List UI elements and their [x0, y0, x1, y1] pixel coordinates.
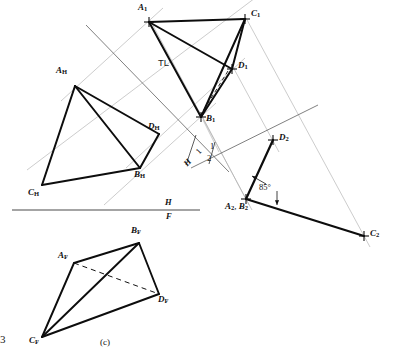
edge-AH-DH: [75, 86, 159, 134]
label-point-BF: BF: [131, 226, 141, 236]
label-point-D1: D1: [238, 61, 248, 71]
label-true-length: TL: [158, 58, 169, 68]
figure-canvas: AH BH CH DH AF BF CF DF A1 B1 C1 D1 A2, …: [0, 0, 396, 356]
label-point-D2: D2: [279, 133, 289, 143]
label-fold-hf-f: F: [166, 212, 172, 221]
projector-CH-C1: [27, 0, 259, 170]
label-point-AH: AH: [56, 66, 67, 76]
edge-A1-C1: [149, 19, 245, 22]
label-point-DF: DF: [158, 295, 168, 305]
point-markers: [144, 14, 369, 241]
label-point-DH: DH: [148, 122, 160, 132]
edge-CH-BH: [42, 168, 140, 185]
projector-D1-D2: [233, 67, 279, 152]
edge-BF-DF: [139, 243, 159, 294]
label-fold-hf-h: H: [165, 198, 172, 207]
projector-DH-D1: [126, 58, 245, 168]
edge-AH-BH: [75, 86, 140, 168]
edge-BH-DH: [140, 134, 159, 168]
page-number: 3: [0, 334, 6, 345]
label-fold-12-1: 1: [210, 142, 214, 151]
edge-A1-B1-hidden: [200, 71, 228, 116]
edge-AH-CH: [42, 86, 75, 185]
edge-CF-DF: [42, 294, 159, 337]
label-point-A2-B2: A2, B2: [225, 202, 248, 212]
label-angle-85: 85°: [259, 183, 271, 192]
fold-line-h1: [86, 25, 229, 172]
label-fold-12-2: 2: [207, 154, 211, 163]
label-point-B1: B1: [206, 114, 215, 124]
label-point-CF: CF: [29, 336, 39, 346]
label-point-BH: BH: [134, 170, 145, 180]
label-point-CH: CH: [28, 188, 39, 198]
edge-AF-DF-hidden: [74, 263, 159, 294]
label-point-C2: C2: [370, 229, 379, 239]
label-point-AF: AF: [58, 251, 68, 261]
edge-B1-D1: [201, 69, 232, 117]
geometry-drawing: [0, 0, 396, 356]
label-point-A1: A1: [138, 3, 147, 13]
projector-C1-C2: [246, 18, 370, 247]
edge-A2B2-C2: [246, 199, 364, 236]
label-point-C1: C1: [251, 9, 260, 19]
edge-AF-CF: [42, 263, 74, 337]
figure-caption: (c): [100, 338, 110, 347]
